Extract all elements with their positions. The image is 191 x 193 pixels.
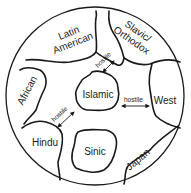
african-label: African (15, 74, 39, 107)
sinic-label: Sinic (84, 146, 106, 157)
civilizations-diagram: Latin American Slavic/ Orthodox African … (0, 0, 191, 193)
latin-american-label: Latin American (47, 20, 94, 56)
hindu-label: Hindu (32, 137, 58, 148)
hostile-islamic-hindu: hostile (50, 105, 74, 127)
hindu-border (22, 121, 63, 180)
slavic-orthodox-label: Slavic/ Orthodox (112, 15, 158, 57)
svg-text:hostile: hostile (124, 96, 143, 103)
west-label: West (154, 95, 177, 106)
islamic-label: Islamic (82, 89, 113, 100)
hostile-islamic-west: hostile (122, 96, 149, 106)
